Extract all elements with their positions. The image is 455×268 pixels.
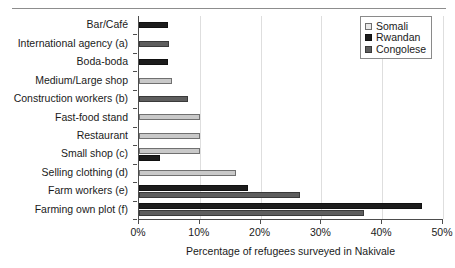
bar-group — [139, 182, 443, 200]
bar-somali — [139, 148, 200, 154]
y-axis-label-4: Medium/Large shop — [35, 75, 128, 86]
y-axis-label-2: International agency (a) — [18, 38, 128, 49]
legend-swatch-icon-rwandan — [365, 34, 372, 41]
gridline — [443, 16, 444, 219]
y-axis-tick — [133, 108, 137, 109]
legend-label: Somali — [376, 21, 408, 32]
bar-chart-figure: Bar/CaféInternational agency (a)Boda-bod… — [0, 0, 455, 268]
bar-somali — [139, 133, 200, 139]
y-axis-tick — [133, 90, 137, 91]
bar-rwandan — [139, 22, 168, 28]
x-axis-tick-label: 30% — [310, 226, 331, 238]
y-axis-tick — [133, 182, 137, 183]
y-axis-tick — [133, 53, 137, 54]
x-axis-tick-label: 0% — [130, 226, 145, 238]
bar-group — [139, 145, 443, 163]
legend-swatch-icon-congolese — [365, 46, 372, 53]
bar-rwandan — [139, 155, 160, 161]
bar-congolese — [139, 210, 364, 216]
y-axis-label-7: Restaurant — [77, 130, 128, 141]
y-axis-tick — [133, 219, 137, 220]
bar-group — [139, 108, 443, 126]
y-axis-label-11: Farming own plot (f) — [35, 204, 128, 215]
y-axis-label-8: Small shop (c) — [61, 148, 128, 159]
y-axis-tick — [133, 34, 137, 35]
x-axis-tick — [381, 220, 382, 224]
x-axis-tick-label: 50% — [431, 226, 452, 238]
bar-somali — [139, 170, 236, 176]
y-axis-tick — [133, 201, 137, 202]
bar-congolese — [139, 41, 169, 47]
y-axis-label-9: Selling clothing (d) — [42, 167, 128, 178]
y-axis-tick — [133, 71, 137, 72]
bar-group — [139, 90, 443, 108]
x-axis-tick-label: 20% — [249, 226, 270, 238]
y-axis-tick — [133, 164, 137, 165]
bar-rwandan — [139, 203, 422, 209]
legend-item-somali[interactable]: Somali — [365, 21, 426, 32]
legend-swatch-icon-somali — [365, 23, 372, 30]
y-axis-label-1: Bar/Café — [87, 19, 128, 30]
x-axis-tick — [199, 220, 200, 224]
x-axis-tick — [442, 220, 443, 224]
chart-legend: SomaliRwandanCongolese — [360, 16, 432, 59]
bar-rwandan — [139, 59, 168, 65]
legend-label: Rwandan — [376, 32, 420, 43]
bar-congolese — [139, 192, 300, 198]
y-axis-tick — [133, 127, 137, 128]
bar-congolese — [139, 96, 188, 102]
bar-somali — [139, 114, 200, 120]
y-axis-label-3: Boda-boda — [77, 56, 128, 67]
x-axis-tick-label: 10% — [188, 226, 209, 238]
legend-item-rwandan[interactable]: Rwandan — [365, 32, 426, 43]
x-axis-line — [138, 219, 443, 220]
y-axis-tick — [133, 145, 137, 146]
y-axis-label-6: Fast-food stand — [55, 112, 128, 123]
x-axis-tick — [320, 220, 321, 224]
x-axis-tick — [260, 220, 261, 224]
y-axis-label-10: Farm workers (e) — [48, 185, 128, 196]
legend-item-congolese[interactable]: Congolese — [365, 44, 426, 55]
bar-group — [139, 71, 443, 89]
bar-somali — [139, 78, 172, 84]
bar-group — [139, 164, 443, 182]
x-axis-tick — [138, 220, 139, 224]
y-axis-label-5: Construction workers (b) — [14, 93, 128, 104]
legend-label: Congolese — [376, 44, 426, 55]
bar-group — [139, 201, 443, 219]
x-axis-tick-label: 40% — [371, 226, 392, 238]
x-axis-title: Percentage of refugees surveyed in Nakiv… — [138, 245, 443, 257]
y-axis-category-labels: Bar/CaféInternational agency (a)Boda-bod… — [0, 16, 133, 219]
bar-rwandan — [139, 185, 248, 191]
bar-group — [139, 127, 443, 145]
